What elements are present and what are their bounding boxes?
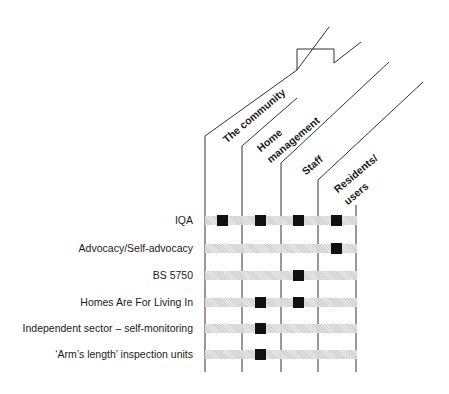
row-band-bs5750 — [205, 271, 357, 280]
mark-arms-length-home-management — [255, 349, 266, 360]
row-label-homes-living: Homes Are For Living In — [80, 296, 193, 308]
mark-advocacy-residents — [331, 243, 342, 254]
house-outline — [0, 0, 449, 394]
mark-homes-home-management — [255, 297, 266, 308]
mark-iqa-residents — [331, 215, 342, 226]
mark-iqa-staff — [293, 215, 304, 226]
mark-bs5750-staff — [293, 270, 304, 281]
mark-homes-staff — [293, 297, 304, 308]
mark-iqa-community — [217, 215, 228, 226]
mark-independent-home-management — [255, 323, 266, 334]
diagram-canvas: The community Home management Staff Resi… — [0, 0, 449, 394]
row-label-advocacy: Advocacy/Self-advocacy — [79, 242, 193, 254]
row-label-bs5750: BS 5750 — [153, 269, 193, 281]
row-band-independent-sector — [205, 324, 357, 333]
row-label-arms-length: ‘Arm’s length’ inspection units — [55, 348, 193, 360]
row-label-independent-sector: Independent sector – self-monitoring — [23, 322, 193, 334]
row-band-homes-living — [205, 298, 357, 307]
row-band-arms-length — [205, 350, 357, 359]
row-label-iqa: IQA — [175, 214, 193, 226]
mark-iqa-home-management — [255, 215, 266, 226]
